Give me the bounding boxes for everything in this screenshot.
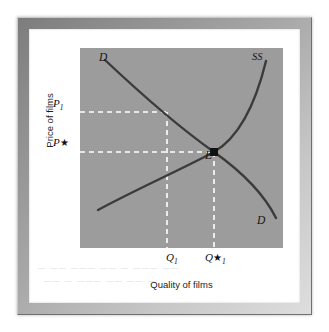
- tick-label-price-pstar: P★: [53, 136, 69, 148]
- tick-label-price-p1: P1: [53, 97, 63, 112]
- chart-plot-svg: [80, 48, 283, 248]
- curve-label-supply: SS: [252, 51, 263, 62]
- x-axis-title: Quality of films: [80, 279, 283, 290]
- supply-curve: [98, 61, 266, 210]
- tick-label-quantity-q1: Q1: [166, 251, 178, 266]
- y-axis-title: Price of films: [44, 73, 55, 169]
- equilibrium-point-label: E: [205, 149, 212, 161]
- chart-container: Price of films Quality of films P1 P★ Q1…: [29, 29, 300, 303]
- tick-label-quantity-qstar: Q★1: [205, 251, 226, 266]
- guide-lines: [80, 112, 214, 248]
- curve-label-demand-bottom: D: [257, 214, 265, 226]
- page-canvas: — —— ——— —— — ——— —— —— — ——— —— —— — Pr…: [0, 0, 329, 332]
- curve-label-demand-top: D: [99, 51, 107, 63]
